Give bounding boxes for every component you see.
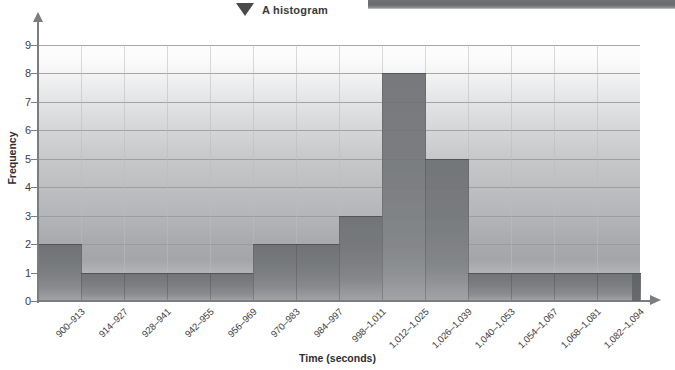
y-tick-label: 9 — [9, 39, 31, 51]
y-axis-arrow-icon — [33, 12, 43, 22]
chart-title: A histogram — [236, 3, 328, 16]
x-tick-label: 998–1,011 — [349, 306, 387, 344]
x-tick-label: 1,082–1,094 — [601, 306, 645, 350]
x-tick-label: 914–927 — [96, 306, 129, 339]
histogram-bar — [253, 244, 297, 301]
y-tick-mark — [31, 102, 37, 103]
vertical-gridline — [597, 45, 598, 301]
vertical-gridline — [511, 45, 512, 301]
y-tick-mark — [31, 45, 37, 46]
x-axis-line — [37, 300, 654, 302]
x-tick-label: 928–941 — [139, 306, 172, 339]
x-axis-arrow-icon — [650, 295, 661, 305]
y-axis-title: Frequency — [6, 98, 18, 218]
x-tick-label: 1,054–1,067 — [515, 306, 559, 350]
histogram-bar — [554, 273, 598, 301]
y-tick-mark — [31, 273, 37, 274]
histogram-bar — [511, 273, 555, 301]
y-tick-mark — [31, 159, 37, 160]
histogram-bar — [425, 159, 469, 301]
vertical-gridline — [124, 45, 125, 301]
vertical-gridline — [554, 45, 555, 301]
histogram-bar — [339, 216, 383, 301]
y-tick-mark — [31, 73, 37, 74]
y-tick-mark — [31, 301, 37, 302]
y-tick-label: 8 — [9, 67, 31, 79]
y-tick-mark — [31, 216, 37, 217]
x-tick-label: 900–913 — [53, 306, 86, 339]
x-tick-label: 956–969 — [225, 306, 258, 339]
vertical-gridline — [167, 45, 168, 301]
x-tick-label: 970–983 — [268, 306, 301, 339]
histogram-bar — [382, 73, 426, 301]
vertical-gridline — [210, 45, 211, 301]
x-axis-title: Time (seconds) — [0, 352, 675, 364]
x-tick-label: 1,068–1,081 — [558, 306, 602, 350]
x-tick-label: 1,012–1,025 — [386, 306, 430, 350]
y-tick-mark — [31, 130, 37, 131]
histogram-bar — [468, 273, 512, 301]
histogram-bar — [296, 244, 340, 301]
right-edge-mark — [632, 274, 640, 301]
y-tick-label: 2 — [9, 238, 31, 250]
histogram-bar — [81, 273, 125, 301]
chart-title-text: A histogram — [262, 4, 328, 16]
y-axis-line — [37, 20, 39, 303]
x-tick-label: 942–955 — [182, 306, 215, 339]
histogram-bar — [167, 273, 211, 301]
plot-area — [38, 45, 640, 301]
y-tick-mark — [31, 244, 37, 245]
histogram-bar — [38, 244, 82, 301]
histogram-bar — [210, 273, 254, 301]
histogram-bar — [124, 273, 168, 301]
x-tick-label: 1,040–1,053 — [472, 306, 516, 350]
triangle-down-icon — [236, 3, 254, 16]
y-tick-mark — [31, 187, 37, 188]
y-tick-label: 1 — [9, 267, 31, 279]
x-tick-label: 984–997 — [311, 306, 344, 339]
scan-artifact-band — [368, 0, 675, 9]
x-tick-label: 1,026–1,039 — [429, 306, 473, 350]
